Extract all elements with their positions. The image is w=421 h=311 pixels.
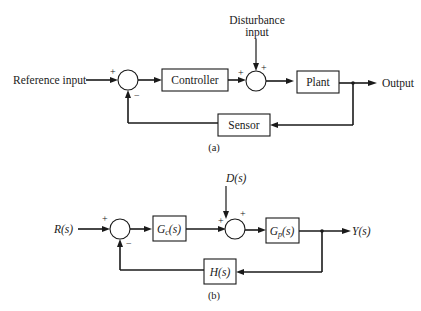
sum1-minus-sign: − — [126, 238, 132, 249]
sum1-minus-sign: − — [134, 90, 140, 101]
arrow-head-icon — [110, 77, 118, 83]
sensor-transfer-label: H(s) — [209, 266, 231, 279]
sum2-plus-top-sign: + — [261, 62, 267, 73]
plant-transfer-label: Gp(s) — [270, 225, 295, 239]
block-diagrams: Reference input + − Controller + + Distu… — [0, 0, 421, 311]
arrow-head-icon — [368, 80, 377, 86]
sum2-plus-left-sign: + — [238, 67, 244, 78]
summing-junction-2 — [246, 71, 266, 91]
caption-a: (a) — [208, 142, 220, 154]
sum2-plus-left-sign: + — [218, 215, 224, 226]
summing-junction-2 — [225, 219, 245, 239]
arrow-head-icon — [286, 78, 294, 84]
arrow-head-icon — [144, 226, 152, 232]
sum1-plus-sign: + — [110, 66, 116, 77]
summing-junction-1 — [110, 219, 130, 239]
arrow-head-icon — [223, 211, 229, 219]
controller-transfer-label: Gc(s) — [157, 223, 181, 237]
sum2-plus-top-sign: + — [240, 208, 246, 219]
sensor-label: Sensor — [228, 119, 259, 131]
arrow-head-icon — [342, 228, 351, 234]
reference-input-label: Reference input — [13, 74, 87, 87]
arrow-head-icon — [154, 77, 162, 83]
output-label-Y: Y(s) — [352, 225, 371, 238]
arrow-head-icon — [236, 269, 244, 275]
arrow-head-icon — [270, 122, 278, 128]
plant-label: Plant — [306, 76, 330, 88]
arrow-head-icon — [258, 227, 266, 233]
input-label-R: R(s) — [53, 223, 73, 236]
arrow-head-icon — [117, 239, 123, 247]
arrow-head-icon — [125, 90, 131, 98]
diagram-b: R(s) + − Gc(s) + + D(s) Gp(s) Y(s) — [53, 172, 371, 302]
arrow-head-icon — [253, 63, 259, 71]
disturbance-label-line1: Disturbance — [229, 14, 285, 26]
controller-label: Controller — [171, 74, 218, 86]
diagram-a: Reference input + − Controller + + Distu… — [13, 14, 415, 154]
disturbance-label-D: D(s) — [225, 172, 247, 185]
caption-b: (b) — [208, 290, 221, 302]
arrow-head-icon — [102, 226, 110, 232]
output-label: Output — [382, 77, 415, 90]
summing-junction-1 — [118, 70, 138, 90]
disturbance-label-line2: input — [245, 26, 269, 39]
sum1-plus-sign: + — [102, 213, 108, 224]
